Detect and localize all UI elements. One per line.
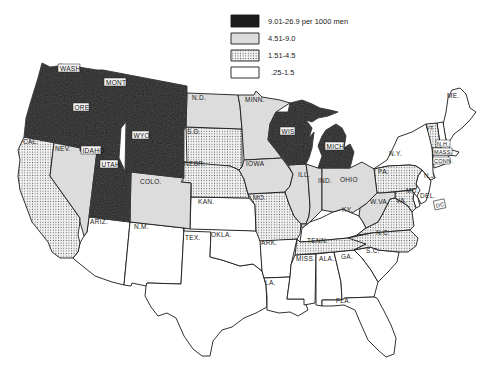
- label-kan: KAN.: [198, 198, 214, 205]
- label-tex: TEX.: [185, 234, 201, 241]
- label-nm: N.M.: [134, 223, 149, 230]
- legend-swatch-9-26: [231, 15, 259, 27]
- label-ark: ARK.: [261, 239, 277, 246]
- label-del: DEL.: [420, 192, 436, 199]
- state-wyoming[interactable]: [125, 122, 184, 178]
- label-utah: UTAH: [100, 160, 120, 168]
- label-md: MD.: [406, 187, 419, 194]
- label-sc: S.C.: [366, 247, 380, 254]
- label-nj: N.J.: [424, 172, 437, 179]
- label-pa: PA.: [378, 168, 389, 175]
- label-miss: MISS.: [296, 255, 315, 262]
- label-nev: NEV.: [55, 145, 71, 152]
- svg-text:N.H.: N.H.: [437, 141, 449, 147]
- label-fla: FLA.: [336, 297, 351, 304]
- us-choropleth-map: 9.01-26.9 per 1000 men 4.51-9.0 1.51-4.5…: [0, 0, 486, 369]
- legend-swatch-4-9: [231, 33, 259, 44]
- label-mo: MO.: [253, 194, 266, 201]
- legend-label-9-26: 9.01-26.9 per 1000 men: [268, 17, 348, 26]
- state-florida[interactable]: [322, 297, 396, 357]
- label-ind: IND.: [318, 177, 332, 184]
- legend-label-4-9: 4.51-9.0: [268, 34, 296, 43]
- label-tenn: TENN.: [307, 237, 328, 244]
- svg-text:MASS.: MASS.: [434, 149, 453, 155]
- label-ky: KY.: [342, 206, 353, 213]
- label-nc: N.C.: [376, 229, 390, 236]
- label-mich: MICH.: [325, 142, 346, 150]
- legend-label-1-4: 1.51-4.5: [268, 51, 296, 60]
- label-wyo: WYO.: [132, 131, 152, 139]
- label-ore: ORE.: [73, 103, 92, 111]
- svg-text:CONN.: CONN.: [434, 158, 453, 164]
- label-wis: WIS.: [280, 127, 297, 135]
- label-minn: MINN.: [245, 96, 265, 103]
- label-va: VA.: [396, 197, 407, 204]
- state-new-mexico[interactable]: [124, 222, 184, 286]
- svg-text:MONT.: MONT.: [106, 79, 128, 86]
- svg-text:WYO.: WYO.: [134, 132, 153, 139]
- label-sd: S.D.: [187, 128, 201, 135]
- label-cal: CAL.: [23, 138, 39, 145]
- legend-swatch-0-1: [231, 67, 259, 78]
- legend-swatch-1-4: [231, 50, 259, 61]
- label-ga: GA.: [341, 253, 353, 260]
- label-conn: CONN.: [433, 157, 453, 164]
- label-ohio: OHIO: [340, 176, 358, 183]
- label-iowa: IOWA: [246, 160, 265, 167]
- label-idaho: IDAHO: [81, 146, 105, 154]
- label-wash: WASH.: [58, 64, 83, 72]
- label-nd: N.D.: [192, 94, 206, 101]
- svg-text:IDAHO: IDAHO: [83, 147, 105, 154]
- label-ala: ALA.: [319, 255, 334, 262]
- svg-text:ORE.: ORE.: [75, 104, 92, 111]
- label-la: LA.: [265, 279, 276, 286]
- label-ill: ILL.: [298, 171, 310, 178]
- label-mass: MASS.: [433, 148, 453, 155]
- svg-text:UTAH: UTAH: [102, 161, 120, 168]
- label-nh: N.H.: [436, 140, 450, 147]
- label-okla: OKLA.: [211, 231, 232, 238]
- label-vt: VT.: [426, 125, 435, 131]
- label-ariz: ARIZ.: [90, 218, 108, 225]
- svg-text:WIS.: WIS.: [282, 128, 297, 135]
- legend-label-0-1: .25-1.5: [271, 68, 294, 77]
- svg-text:WASH.: WASH.: [60, 65, 83, 72]
- label-dc: DC: [433, 199, 446, 210]
- svg-text:MICH.: MICH.: [327, 143, 347, 150]
- label-mont: MONT.: [104, 78, 128, 86]
- label-me: ME.: [447, 92, 459, 99]
- legend: 9.01-26.9 per 1000 men 4.51-9.0 1.51-4.5…: [231, 15, 348, 78]
- label-nebr: NEBR.: [184, 160, 205, 167]
- label-colo: COLO.: [140, 178, 162, 185]
- label-wva: W.VA.: [370, 198, 389, 205]
- label-ny: N.Y.: [389, 150, 402, 157]
